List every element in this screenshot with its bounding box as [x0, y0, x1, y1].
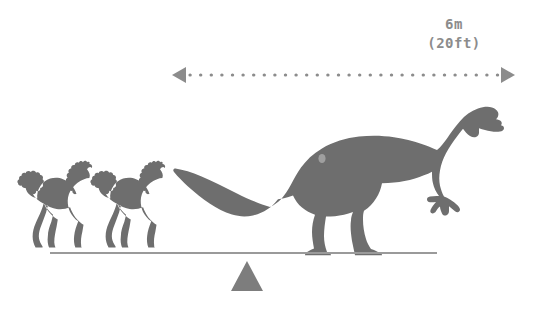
size-comparison-illustration: 6m (20ft)	[0, 0, 534, 317]
arrow-left-icon	[172, 67, 186, 83]
horse-group	[17, 161, 165, 248]
arrow-right-icon	[501, 67, 515, 83]
horse-silhouette-icon	[17, 161, 92, 248]
triangle-fulcrum-icon	[231, 261, 263, 291]
scale-label-imperial: (20ft)	[415, 33, 493, 53]
dinosaur-silhouette-icon	[173, 107, 504, 255]
highlight-artifact	[318, 154, 325, 163]
balance-beam-group	[50, 253, 437, 291]
horse-body	[90, 161, 165, 248]
scale-label-metric: 6m	[424, 14, 484, 34]
horse-silhouette-icon	[90, 161, 165, 248]
horse-body	[17, 161, 92, 248]
scale-bar-group	[172, 67, 515, 83]
